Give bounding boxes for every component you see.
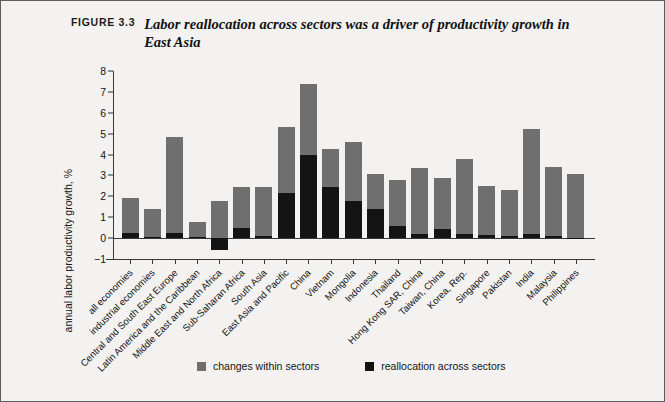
plot-area: −1012345678 all economiesindustrial econ… [113, 71, 595, 259]
x-tick-mark [554, 259, 555, 264]
x-tick-mark [464, 259, 465, 264]
legend-swatch-icon [197, 362, 206, 371]
bar-column [411, 71, 428, 259]
bar-column [278, 71, 295, 259]
bar-segment-reallocation [367, 209, 384, 238]
legend-item: changes within sectors [197, 360, 319, 372]
x-tick-mark [509, 259, 510, 264]
y-tick-mark [108, 196, 113, 197]
bar-segment-reallocation [567, 238, 584, 239]
x-tick-mark [197, 259, 198, 264]
x-tick-mark [152, 259, 153, 264]
bar-segment-within [211, 201, 228, 239]
bar-segment-within [144, 209, 161, 237]
bar-segment-reallocation [501, 236, 518, 238]
x-tick-mark [308, 259, 309, 264]
y-tick-mark [108, 71, 113, 72]
bar-segment-within [345, 142, 362, 200]
bar-segment-reallocation [189, 237, 206, 238]
bar-segment-within [478, 186, 495, 235]
x-tick-mark [175, 259, 176, 264]
bar-segment-reallocation [345, 201, 362, 239]
x-tick-mark [487, 259, 488, 264]
figure-panel: FIGURE 3.3Labor reallocation across sect… [0, 0, 665, 402]
bar-segment-reallocation [523, 234, 540, 238]
bar-segment-reallocation [300, 155, 317, 239]
x-axis-line [106, 259, 595, 260]
y-tick-mark [108, 112, 113, 113]
y-tick-mark [108, 238, 113, 239]
bar-segment-within [434, 178, 451, 229]
legend-item: reallocation across sectors [365, 360, 505, 372]
x-tick-mark [353, 259, 354, 264]
bar-column [389, 71, 406, 259]
bar-segment-within [278, 127, 295, 193]
y-tick-mark [108, 133, 113, 134]
bar-column [567, 71, 584, 259]
y-tick-mark [108, 91, 113, 92]
x-tick-mark [375, 259, 376, 264]
legend-label: changes within sectors [213, 360, 319, 372]
figure-caption: FIGURE 3.3Labor reallocation across sect… [71, 15, 611, 51]
bar-segment-reallocation [166, 233, 183, 238]
bar-segment-reallocation [255, 236, 272, 238]
bar-column [478, 71, 495, 259]
y-axis-label: annual labor productivity growth, % [62, 169, 74, 332]
bar-segment-reallocation [278, 193, 295, 238]
bar-column [367, 71, 384, 259]
bar-segment-reallocation [434, 229, 451, 238]
bar-segment-within [322, 149, 339, 187]
legend-label: reallocation across sectors [381, 360, 505, 372]
x-tick-mark [442, 259, 443, 264]
y-tick-mark [108, 217, 113, 218]
bar-segment-within [166, 137, 183, 233]
bar-segment-reallocation [122, 233, 139, 238]
bar-segment-within [456, 159, 473, 234]
bar-segment-within [389, 180, 406, 226]
bar-segment-within [545, 167, 562, 236]
bar-segment-reallocation [411, 234, 428, 238]
x-tick-mark [286, 259, 287, 264]
y-tick-mark [108, 154, 113, 155]
bar-segment-reallocation [322, 187, 339, 238]
bar-column [523, 71, 540, 259]
bar-segment-reallocation [456, 234, 473, 238]
bar-column [501, 71, 518, 259]
bar-column [144, 71, 161, 259]
bar-segment-within [367, 174, 384, 208]
bar-segment-within [122, 198, 139, 232]
bar-segment-reallocation [144, 237, 161, 238]
x-tick-mark [398, 259, 399, 264]
bar-column [166, 71, 183, 259]
bar-segment-within [411, 168, 428, 234]
bar-segment-within [255, 187, 272, 236]
bar-column [434, 71, 451, 259]
bar-column [122, 71, 139, 259]
y-axis-line [113, 71, 114, 259]
bar-segment-reallocation [211, 238, 228, 249]
bar-segment-reallocation [545, 236, 562, 238]
bar-segment-within [189, 222, 206, 237]
figure-number: FIGURE 3.3 [71, 15, 135, 28]
bar-segment-reallocation [478, 235, 495, 238]
bar-column [255, 71, 272, 259]
bar-segment-within [501, 190, 518, 236]
x-tick-mark [531, 259, 532, 264]
bar-column [300, 71, 317, 259]
bar-column [545, 71, 562, 259]
legend-swatch-icon [365, 362, 374, 371]
x-tick-mark [242, 259, 243, 264]
bar-column [322, 71, 339, 259]
x-tick-mark [219, 259, 220, 264]
bar-column [345, 71, 362, 259]
bar-segment-reallocation [233, 228, 250, 238]
bar-segment-reallocation [389, 226, 406, 239]
y-tick-mark [108, 175, 113, 176]
x-tick-mark [130, 259, 131, 264]
y-tick-label: −1 [94, 253, 113, 265]
bar-segment-within [523, 129, 540, 233]
x-tick-mark [264, 259, 265, 264]
bar-column [456, 71, 473, 259]
bar-column [189, 71, 206, 259]
chart-legend: changes within sectorsreallocation acros… [197, 360, 506, 372]
